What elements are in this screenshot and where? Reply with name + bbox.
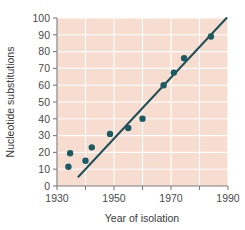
data-point-10 — [208, 33, 214, 39]
y-tick-label: 100 — [32, 12, 50, 24]
scatter-plot-svg: 0102030405060708090100 1930195019701990 … — [0, 0, 245, 230]
data-point-3 — [89, 144, 95, 150]
x-tick-label: 1970 — [159, 192, 183, 204]
data-point-9 — [181, 55, 187, 61]
x-tick-label: 1990 — [216, 192, 240, 204]
data-point-5 — [125, 125, 131, 131]
data-point-7 — [160, 82, 166, 88]
x-axis-title: Year of isolation — [105, 212, 179, 224]
y-tick-label: 50 — [38, 96, 50, 108]
data-point-8 — [171, 69, 177, 75]
y-tick-label: 70 — [38, 62, 50, 74]
y-tick-label: 80 — [38, 45, 50, 57]
y-tick-label: 10 — [38, 163, 50, 175]
y-tick-label: 0 — [44, 180, 50, 192]
data-point-2 — [82, 158, 88, 164]
data-point-0 — [65, 163, 71, 169]
y-tick-label: 20 — [38, 146, 50, 158]
y-axis-title: Nucleotide substitutions — [4, 47, 16, 158]
y-tick-label: 30 — [38, 129, 50, 141]
y-tick-label: 60 — [38, 79, 50, 91]
data-point-1 — [67, 150, 73, 156]
chart-figure: 0102030405060708090100 1930195019701990 … — [0, 0, 245, 230]
data-point-6 — [139, 116, 145, 122]
y-tick-label: 90 — [38, 29, 50, 41]
x-tick-label: 1930 — [45, 192, 69, 204]
y-tick-label: 40 — [38, 113, 50, 125]
x-tick-label: 1950 — [102, 192, 126, 204]
data-point-4 — [107, 131, 113, 137]
